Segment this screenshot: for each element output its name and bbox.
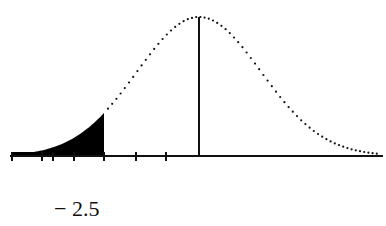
cutoff-label: − 2.5 xyxy=(54,196,99,222)
normal-distribution-plot xyxy=(0,0,386,226)
density-curve xyxy=(107,16,378,155)
shaded-left-tail xyxy=(12,113,104,156)
